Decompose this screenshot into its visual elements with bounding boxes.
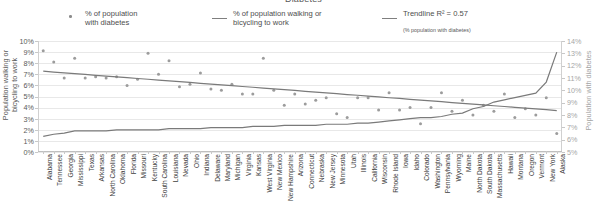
scatter-point — [42, 49, 45, 52]
x-axis-label: Georgia — [67, 154, 74, 177]
x-axis-label: Indiana — [203, 154, 210, 176]
x-axis-label: Michigan — [234, 154, 241, 180]
scatter-point — [262, 57, 265, 60]
scatter-point — [356, 96, 359, 99]
x-axis-label: Virginia — [245, 154, 252, 176]
scatter-point — [147, 52, 150, 55]
x-axis-label: Wyoming — [455, 154, 462, 181]
x-tick-mark — [431, 151, 432, 154]
scatter-point — [199, 72, 202, 75]
scatter-point — [503, 93, 506, 96]
x-tick-mark — [305, 151, 306, 154]
scatter-point — [209, 88, 212, 91]
x-tick-mark — [358, 151, 359, 154]
y-tick-mark-right — [562, 140, 565, 141]
x-tick-mark — [242, 151, 243, 154]
x-axis-label: Texas — [88, 154, 95, 171]
x-axis-label: South Dakota — [486, 154, 493, 194]
x-axis-label: Connecticut — [308, 154, 315, 189]
x-tick-mark — [504, 151, 505, 154]
x-tick-mark — [483, 151, 484, 154]
x-axis-label: Oklahoma — [119, 154, 126, 184]
x-tick-mark — [75, 151, 76, 154]
x-axis-label: Nebraska — [318, 154, 325, 182]
scatter-point — [377, 109, 380, 112]
x-tick-mark — [179, 151, 180, 154]
x-tick-mark — [106, 151, 107, 154]
x-tick-mark — [211, 151, 212, 154]
y-tick-mark-left — [35, 97, 38, 98]
scatter-point — [409, 106, 412, 109]
x-tick-mark — [253, 151, 254, 154]
x-tick-mark — [138, 151, 139, 154]
x-axis-label: Idaho — [413, 154, 420, 171]
x-axis-label: Florida — [130, 154, 137, 174]
chart-title: Diabetes — [0, 0, 607, 4]
y-tick-label-left: 6% — [8, 81, 34, 90]
scatter-point — [440, 91, 443, 94]
y-tick-label-right: 14% — [567, 37, 593, 46]
scatter-point — [430, 106, 433, 109]
line-marker-icon — [212, 14, 232, 22]
x-tick-mark — [546, 151, 547, 154]
dot-marker-icon — [64, 14, 84, 22]
legend-label-walking: % of population walking or bicycling to … — [233, 9, 383, 28]
scatter-point — [304, 102, 307, 105]
x-axis-label: Washington — [434, 154, 441, 189]
scatter-point — [283, 104, 286, 107]
scatter-point — [471, 114, 474, 117]
diabetes-chart: Diabetes % of population with diabetes %… — [0, 0, 607, 220]
scatter-point — [346, 116, 349, 119]
x-axis-label: Utah — [350, 154, 357, 168]
y-tick-mark-left — [35, 130, 38, 131]
trendline-path — [43, 71, 557, 110]
y-tick-label-left: 1% — [8, 137, 34, 146]
x-tick-mark — [421, 151, 422, 154]
scatter-point — [534, 114, 537, 117]
x-tick-mark — [169, 151, 170, 154]
scatter-point — [461, 99, 464, 102]
y-tick-label-right: 12% — [567, 61, 593, 70]
y-tick-mark-right — [562, 127, 565, 128]
y-tick-mark-left — [35, 108, 38, 109]
scatter-point — [251, 93, 254, 96]
scatter-point — [398, 109, 401, 112]
x-tick-mark — [326, 151, 327, 154]
scatter-point — [168, 59, 171, 62]
scatter-point — [241, 93, 244, 96]
series-layer — [38, 41, 562, 152]
x-tick-mark — [295, 151, 296, 154]
x-tick-mark — [96, 151, 97, 154]
x-axis-labels: AlabamaTennesseeGeorgiaMississippiTexasA… — [38, 154, 562, 220]
x-tick-mark — [347, 151, 348, 154]
x-tick-mark — [515, 151, 516, 154]
scatter-point — [335, 112, 338, 115]
x-axis-label: New Jersey — [329, 154, 336, 188]
x-tick-mark — [379, 151, 380, 154]
x-axis-label: Rhode Island — [392, 154, 399, 193]
x-tick-mark — [232, 151, 233, 154]
x-tick-mark — [316, 151, 317, 154]
chart-legend: % of population with diabetes % of popul… — [64, 11, 604, 37]
x-axis-label: Wisconsin — [381, 154, 388, 184]
x-tick-mark — [462, 151, 463, 154]
x-tick-mark — [441, 151, 442, 154]
x-axis-label: Mississippi — [77, 154, 84, 186]
y-tick-mark-right — [562, 103, 565, 104]
scatter-point — [325, 96, 328, 99]
y-tick-label-left: 3% — [8, 115, 34, 124]
y-tick-mark-right — [562, 78, 565, 79]
x-axis-label: Nevada — [182, 154, 189, 177]
x-tick-mark — [221, 151, 222, 154]
scatter-points — [42, 49, 559, 135]
x-axis-label: Oregon — [528, 154, 535, 176]
y-tick-mark-left — [35, 85, 38, 86]
x-axis-label: Tennessee — [56, 154, 63, 186]
x-tick-mark — [263, 151, 264, 154]
scatter-point — [293, 93, 296, 96]
y-tick-label-left: 9% — [8, 48, 34, 57]
y-tick-mark-right — [562, 41, 565, 42]
x-axis-label: Iowa — [402, 154, 409, 168]
y-tick-mark-left — [35, 41, 38, 42]
x-axis-label: Alabama — [46, 154, 53, 180]
